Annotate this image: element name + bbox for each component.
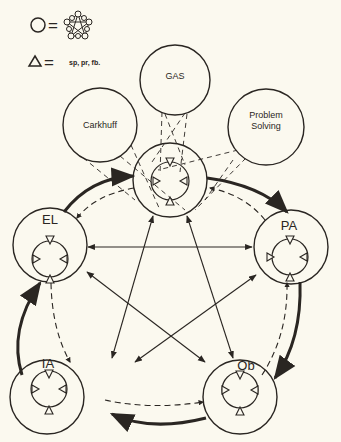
model-problem-solving-label-2: Solving <box>251 121 281 131</box>
legend-triangle-icon <box>29 56 41 66</box>
model-problem-solving-label-1: Problem <box>249 110 283 120</box>
legend-triangle-meaning: sp, pr, fb. <box>69 59 100 67</box>
node-ob: Ob <box>203 358 277 434</box>
node-pa-label: PA <box>281 218 298 233</box>
cross-arrows <box>87 216 256 362</box>
triangle-icon <box>153 158 187 205</box>
node-el: EL <box>13 208 87 283</box>
legend-circle-icon <box>31 18 45 32</box>
model-gas-label: GAS <box>165 71 184 81</box>
model-carkhuff-label: Carkhuff <box>83 120 117 130</box>
diagram: = = sp, pr, fb. Carkhuff <box>0 0 341 442</box>
triangle-icon <box>32 370 66 414</box>
model-carkhuff: Carkhuff <box>63 88 137 162</box>
model-gas: GAS <box>140 45 210 115</box>
pentagon-network-icon <box>64 11 92 39</box>
legend: = = sp, pr, fb. <box>29 11 100 72</box>
legend-equals-1: = <box>48 16 58 35</box>
model-problem-solving: Problem Solving <box>228 89 304 165</box>
node-ia-label: IA <box>42 356 55 371</box>
legend-equals-2: = <box>44 53 54 72</box>
diagram-canvas: = = sp, pr, fb. Carkhuff <box>0 0 341 442</box>
node-center <box>133 143 207 217</box>
node-pa: PA <box>254 210 328 284</box>
node-el-label: EL <box>42 212 58 227</box>
triangle-icon <box>33 236 67 283</box>
